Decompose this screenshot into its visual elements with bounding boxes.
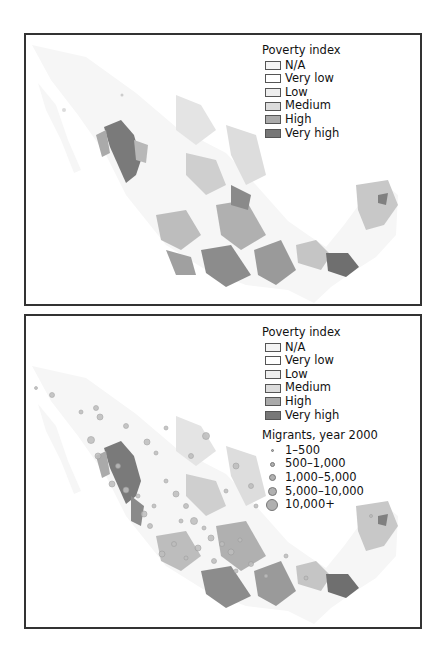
legend-item-medium: Medium (262, 381, 378, 395)
swatch-high (265, 115, 281, 124)
swatch-medium (265, 102, 281, 111)
swatch-low (265, 88, 281, 97)
legend-label: Medium (285, 99, 331, 113)
circle-size-icon (268, 487, 277, 496)
legend-item-high: High (262, 113, 341, 127)
legend-label: Low (285, 368, 308, 382)
legend-item-very-high: Very high (262, 409, 378, 423)
legend-label: 5,000–10,000 (285, 485, 364, 499)
mexico-poverty-map (26, 35, 422, 306)
legend-title: Poverty index (262, 44, 341, 58)
legend-label: N/A (285, 341, 305, 355)
migrants-legend-title: Migrants, year 2000 (262, 429, 378, 443)
legend-item-high: High (262, 395, 378, 409)
legend-label: Medium (285, 381, 331, 395)
swatch-very-high (265, 129, 281, 138)
legend-label: Very low (285, 72, 334, 86)
legend-item-very-low: Very low (262, 354, 378, 368)
legend-label: Very low (285, 354, 334, 368)
swatch-high (265, 397, 281, 406)
legend-label: 500–1,000 (285, 457, 346, 471)
poverty-map-panel: Poverty index N/A Very low Low Medium Hi… (24, 33, 422, 306)
legend-label: 10,000+ (285, 498, 335, 512)
swatch-very-low (265, 74, 281, 83)
legend-item-na: N/A (262, 59, 341, 73)
poverty-migrants-map-panel: Poverty index N/A Very low Low Medium Hi… (24, 314, 422, 629)
legend-label: Low (285, 86, 308, 100)
swatch-very-high (265, 411, 281, 420)
legend-item-very-low: Very low (262, 72, 341, 86)
migrants-item: 500–1,000 (262, 457, 378, 471)
migrants-item: 5,000–10,000 (262, 485, 378, 499)
legend-label: High (285, 395, 311, 409)
circle-size-icon (270, 462, 275, 467)
migrants-item: 1–500 (262, 444, 378, 458)
legend-label: Very high (285, 409, 339, 423)
legend-title: Poverty index (262, 326, 378, 340)
legend-label: Very high (285, 127, 339, 141)
legend-label: High (285, 113, 311, 127)
swatch-medium (265, 384, 281, 393)
legend-label: N/A (285, 59, 305, 73)
migrants-item: 1,000–5,000 (262, 471, 378, 485)
swatch-very-low (265, 356, 281, 365)
legend-item-low: Low (262, 86, 341, 100)
poverty-legend: Poverty index N/A Very low Low Medium Hi… (262, 44, 341, 140)
circle-size-icon (271, 449, 274, 452)
circle-size-icon (266, 499, 278, 511)
circle-size-icon (269, 474, 276, 481)
migrants-item: 10,000+ (262, 498, 378, 512)
legend-label: 1–500 (285, 444, 320, 458)
swatch-na (265, 61, 281, 70)
legend-item-low: Low (262, 368, 378, 382)
legend-item-medium: Medium (262, 99, 341, 113)
legend-item-na: N/A (262, 341, 378, 355)
swatch-low (265, 370, 281, 379)
swatch-na (265, 343, 281, 352)
legend-item-very-high: Very high (262, 127, 341, 141)
poverty-migrants-legend: Poverty index N/A Very low Low Medium Hi… (262, 326, 378, 512)
legend-label: 1,000–5,000 (285, 471, 357, 485)
